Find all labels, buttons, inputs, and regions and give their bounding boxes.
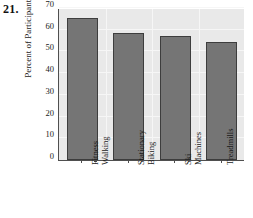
exercise-number: 21. [3, 2, 19, 17]
y-axis-tick-label: 70 [38, 0, 54, 9]
x-axis-tick-labels: FitnessWalkingStationaryBikingSkiMachine… [58, 163, 244, 218]
y-axis-tick-label: 0 [38, 151, 54, 161]
x-axis-tick-mark [81, 160, 82, 163]
y-axis-tick-label: 60 [38, 21, 54, 31]
gridline-horizontal [59, 7, 244, 8]
y-axis-title: Percent of Participants [21, 0, 35, 92]
y-axis-tick-labels: 010203040506070 [38, 4, 54, 166]
x-axis-tick-mark [174, 160, 175, 163]
y-axis-tick-label: 20 [38, 108, 54, 118]
y-axis-tick-label: 40 [38, 64, 54, 74]
y-axis-tick-label: 30 [38, 86, 54, 96]
bar-chart-figure: 21. Percent of Participants 010203040506… [0, 0, 253, 218]
x-axis-tick-mark [128, 160, 129, 163]
y-axis-tick-label: 50 [38, 42, 54, 52]
y-axis-tick-label: 10 [38, 129, 54, 139]
x-axis-tick-mark [221, 160, 222, 163]
